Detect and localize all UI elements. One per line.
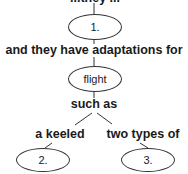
branch-keeled: a keeled <box>30 127 90 141</box>
node-2: 2. <box>16 148 70 172</box>
top-label-cut: ...they ... <box>60 0 130 5</box>
branch-two-types: two types of <box>103 127 183 141</box>
node-3: 3. <box>121 148 175 172</box>
node-flight: flight <box>68 66 122 92</box>
link-such-as: such as <box>64 97 124 111</box>
node-1: 1. <box>68 14 122 40</box>
link-adaptations: and they have adaptations for <box>0 43 188 57</box>
